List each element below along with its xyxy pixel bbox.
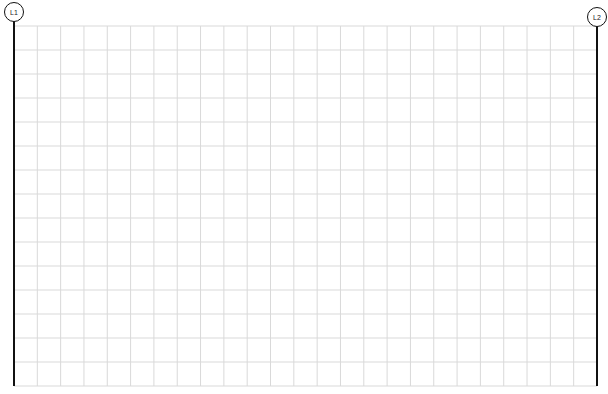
grid-line-l2 [596,19,598,386]
grid-canvas [0,0,608,394]
grid-marker-label: L1 [10,9,18,16]
grid-marker-l2: L2 [587,7,607,27]
grid-marker-label: L2 [593,14,601,21]
grid-marker-l1: L1 [4,2,24,22]
grid-line-l1 [13,19,15,386]
